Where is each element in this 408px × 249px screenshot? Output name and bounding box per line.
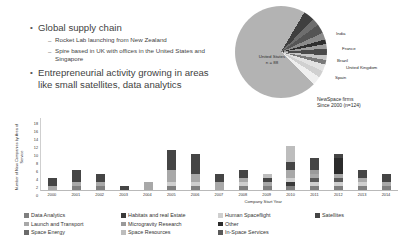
bar-segment (382, 186, 391, 190)
bar-segment (310, 158, 319, 170)
x-tick-label: 2014 (374, 192, 398, 197)
bar-column (374, 118, 398, 190)
bar-column (112, 118, 136, 190)
bar-segment (96, 174, 105, 182)
legend-label: Launch and Transport (31, 221, 83, 228)
bar-column (327, 118, 351, 190)
bar-column (89, 118, 113, 190)
stacked-bar[interactable] (239, 170, 248, 190)
stacked-bar[interactable] (382, 174, 391, 190)
legend-swatch (121, 213, 126, 218)
y-tick-label: 0 (36, 194, 38, 198)
x-tick-label: 2007 (207, 192, 231, 197)
pie-label-united-kingdom: United Kingdom (346, 65, 377, 70)
legend-swatch (24, 222, 29, 227)
y-axis-ticks: 024681012141618 (24, 118, 38, 190)
y-tick-label: 14 (34, 138, 38, 142)
legend-item[interactable]: Human Spaceflight (218, 212, 307, 219)
legend-label: Space Resources (128, 229, 171, 236)
bar-segment (215, 174, 224, 182)
x-tick-label: 2003 (112, 192, 136, 197)
y-tick-label: 10 (34, 154, 38, 158)
legend-swatch (121, 230, 126, 235)
stacked-bar[interactable] (215, 174, 224, 190)
legend-item[interactable]: Data Analytics (24, 212, 113, 219)
x-axis-ticks: 2000200120022003200420052006200720082009… (40, 192, 398, 197)
bullet-glyph: • (30, 22, 38, 34)
bullet-text: Entrepreneurial activity growing in area… (38, 67, 210, 91)
legend-item[interactable]: Space Energy (24, 229, 113, 236)
bar-chart: Number of New Companies by Area of Servi… (2, 112, 406, 210)
legend-item[interactable]: Launch and Transport (24, 221, 113, 228)
pie-label-france: France (342, 46, 356, 51)
stacked-bar[interactable] (334, 154, 343, 190)
bar-segment (167, 150, 176, 170)
stacked-bar[interactable] (310, 158, 319, 190)
x-tick-label: 2000 (40, 192, 64, 197)
x-tick-label: 2010 (279, 192, 303, 197)
bar-segment (215, 182, 224, 190)
x-tick-label: 2004 (135, 192, 159, 197)
stacked-bar[interactable] (120, 186, 129, 190)
legend-item[interactable]: Microgravity Research (121, 221, 210, 228)
legend-swatch (218, 230, 223, 235)
bullet-item: • Global supply chain (30, 22, 210, 34)
x-tick-label: 2013 (350, 192, 374, 197)
bar-segment (239, 186, 248, 190)
bar-segment (191, 174, 200, 182)
stacked-bar[interactable] (144, 182, 153, 190)
bar-series-group (41, 118, 398, 190)
x-tick-label: 2005 (159, 192, 183, 197)
x-axis-title: Company Start Year (245, 199, 282, 204)
y-tick-label: 8 (36, 162, 38, 166)
bar-column (41, 118, 65, 190)
x-tick-label: 2002 (88, 192, 112, 197)
bar-segment (239, 170, 248, 178)
plot-area (40, 118, 398, 191)
legend-item[interactable]: Other (218, 221, 307, 228)
sub-bullet-item: – Spire based in UK with offices in the … (48, 47, 210, 63)
y-tick-label: 16 (34, 130, 38, 134)
bar-segment (72, 170, 81, 182)
bar-column (136, 118, 160, 190)
sub-bullet-item: – Rocket Lab launching from New Zealand (48, 36, 210, 46)
legend-label: Other (225, 221, 238, 228)
chart-legend: Data AnalyticsLaunch and TransportSpace … (24, 212, 404, 236)
bar-column (160, 118, 184, 190)
bar-segment (120, 186, 129, 190)
bullet-glyph: • (30, 67, 38, 79)
dash-glyph: – (48, 36, 55, 46)
bar-segment (144, 182, 153, 190)
bullet-item: • Entrepreneurial activity growing in ar… (30, 67, 210, 91)
bar-column (231, 118, 255, 190)
bar-segment (286, 146, 295, 162)
bar-column (350, 118, 374, 190)
pie-center-label: United States n = 88 (243, 54, 301, 65)
x-tick-label: 2006 (183, 192, 207, 197)
stacked-bar[interactable] (358, 170, 367, 190)
legend-label: Space Energy (31, 229, 65, 236)
stacked-bar[interactable] (191, 154, 200, 190)
bar-segment (48, 178, 57, 186)
bar-segment (334, 158, 343, 174)
legend-item[interactable]: In-Space Services (218, 229, 307, 236)
y-tick-label: 2 (36, 186, 38, 190)
pie-label-brazil: Brazil (337, 58, 348, 63)
legend-item[interactable]: Habitats and real Estate (121, 212, 210, 219)
bar-segment (167, 170, 176, 182)
bar-column (184, 118, 208, 190)
sub-bullet-text: Spire based in UK with offices in the Un… (55, 47, 210, 63)
stacked-bar[interactable] (263, 174, 272, 190)
bar-segment (358, 186, 367, 190)
x-tick-label: 2011 (302, 192, 326, 197)
stacked-bar[interactable] (286, 146, 295, 190)
pie-label-india: India (336, 31, 346, 36)
bar-segment (263, 186, 272, 190)
stacked-bar[interactable] (48, 178, 57, 190)
legend-item[interactable]: Satellites (315, 212, 404, 219)
bullet-list: • Global supply chain – Rocket Lab launc… (30, 22, 210, 93)
stacked-bar[interactable] (72, 170, 81, 190)
stacked-bar[interactable] (167, 150, 176, 190)
stacked-bar[interactable] (96, 174, 105, 190)
legend-item[interactable]: Space Resources (121, 229, 210, 236)
